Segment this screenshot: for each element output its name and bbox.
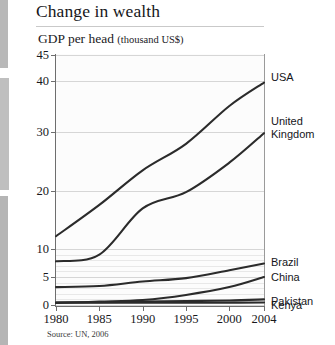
page-edge-artifact-middle	[0, 78, 9, 190]
series-label-kenya: Kenya	[271, 299, 302, 312]
chart-subtitle: GDP per head (thousand US$)	[38, 31, 184, 47]
subtitle-main: GDP per head	[38, 31, 114, 46]
x-tick-1995	[186, 306, 187, 311]
y-axis-label-5: 5	[9, 270, 49, 285]
series-lines	[56, 54, 264, 306]
y-axis-label-10: 10	[9, 242, 49, 257]
series-label-united-kingdom: United Kingdom	[271, 115, 314, 140]
x-axis-label-1995: 1995	[174, 312, 199, 327]
page-edge-artifact-bottom	[0, 196, 8, 345]
x-tick-1980	[56, 306, 57, 311]
y-axis-label-40: 40	[9, 74, 49, 89]
y-axis-label-30: 30	[9, 125, 49, 140]
plot-area	[56, 54, 264, 306]
x-axis-label-1985: 1985	[87, 312, 112, 327]
chart-figure: Change in wealth GDP per head (thousand …	[9, 0, 335, 345]
title-divider	[36, 26, 264, 27]
x-axis-label-2000: 2000	[217, 312, 242, 327]
y-axis-label-45: 45	[9, 48, 49, 63]
y-axis-label-0: 0	[9, 298, 49, 313]
x-axis-label-1990: 1990	[130, 312, 155, 327]
x-axis-line	[55, 306, 265, 307]
x-tick-1985	[99, 306, 100, 311]
x-axis-label-1980: 1980	[44, 312, 69, 327]
series-label-china: China	[271, 271, 300, 284]
x-tick-2004	[264, 306, 265, 311]
plot-right-border	[264, 54, 265, 306]
subtitle-units: (thousand US$)	[117, 34, 183, 45]
x-axis-label-2004: 2004	[252, 312, 277, 327]
source-note: Source: UN, 2006	[47, 329, 109, 339]
series-line-brazil	[56, 264, 264, 288]
series-line-united-kingdom	[56, 133, 264, 261]
x-tick-2000	[229, 306, 230, 311]
series-label-brazil: Brazil	[271, 256, 299, 269]
y-axis-labels: 051020304045	[9, 54, 55, 306]
chart-title: Change in wealth	[36, 1, 160, 22]
series-end-labels: USAUnited KingdomBrazilChinaPakistanKeny…	[271, 54, 335, 314]
y-axis-label-20: 20	[9, 184, 49, 199]
page-edge-artifact-top	[0, 0, 8, 68]
series-label-usa: USA	[271, 71, 294, 84]
x-tick-1990	[143, 306, 144, 311]
